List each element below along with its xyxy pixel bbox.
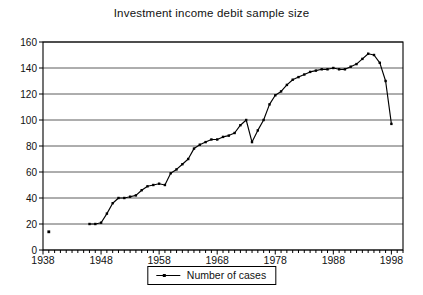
data-point-marker [344,68,346,70]
y-tick-label: 20 [26,219,38,230]
data-point-marker [292,79,294,81]
data-point-marker [112,202,114,204]
investment-income-chart-figure: Investment income debit sample size 0204… [0,0,423,295]
data-point-marker [228,134,230,136]
data-point-marker [158,183,160,185]
x-tick-label: 1958 [147,254,171,266]
legend-line-marker-icon [155,271,181,280]
line-chart: 0204060801001201401601938194819581968197… [0,0,423,295]
legend: Number of cases [147,266,276,285]
data-point-marker [379,62,381,64]
y-tick-label: 40 [26,193,38,204]
data-point-marker [251,141,253,143]
data-point-marker [367,53,369,55]
x-tick-label: 1968 [206,254,230,266]
data-point-marker [117,197,119,199]
data-point-marker [390,123,392,125]
data-point-marker [332,67,334,69]
data-point-marker [338,68,340,70]
data-point-marker [315,69,317,71]
data-point-marker [146,185,148,187]
data-point-marker [303,73,305,75]
data-point-marker [94,223,96,225]
data-point-marker [350,66,352,68]
x-tick-label: 1948 [89,254,113,266]
data-point-marker [233,132,235,134]
x-tick-label: 1998 [380,254,404,266]
data-point-marker [384,80,386,82]
x-tick-label: 1938 [31,254,55,266]
data-point-marker [187,158,189,160]
data-point-marker [181,163,183,165]
data-point-marker [321,68,323,70]
data-point-marker [373,54,375,56]
data-point-marker [170,172,172,174]
data-point-marker [193,147,195,149]
data-point-marker [88,223,90,225]
data-point-marker [297,76,299,78]
y-tick-label: 120 [20,89,37,100]
data-point-marker [222,136,224,138]
series-line [90,54,392,224]
data-point-marker [239,124,241,126]
data-point-marker [210,138,212,140]
y-tick-label: 100 [20,115,37,126]
data-point-marker [100,222,102,224]
data-point-marker [141,189,143,191]
data-point-marker [326,68,328,70]
data-point-marker [164,184,166,186]
isolated-data-point [47,230,50,233]
data-point-marker [204,141,206,143]
data-point-marker [216,138,218,140]
data-point-marker [355,63,357,65]
y-tick-label: 60 [26,167,38,178]
data-point-marker [129,196,131,198]
data-point-marker [199,144,201,146]
data-point-marker [361,58,363,60]
data-point-marker [123,197,125,199]
data-point-marker [309,71,311,73]
data-point-marker [245,119,247,121]
data-point-marker [106,212,108,214]
y-tick-label: 160 [20,37,37,48]
data-point-marker [274,94,276,96]
x-tick-label: 1988 [322,254,346,266]
data-point-marker [286,84,288,86]
data-point-marker [262,119,264,121]
y-tick-label: 80 [26,141,38,152]
data-point-marker [152,184,154,186]
data-point-marker [268,103,270,105]
data-point-marker [175,168,177,170]
data-point-marker [135,194,137,196]
legend-label: Number of cases [187,269,266,281]
x-tick-label: 1978 [264,254,288,266]
y-tick-label: 140 [20,63,37,74]
data-point-marker [257,129,259,131]
data-point-marker [280,90,282,92]
